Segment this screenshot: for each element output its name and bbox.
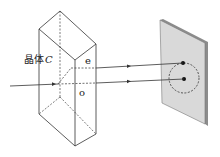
e-ray-label: e — [85, 55, 91, 66]
incident-ray — [10, 82, 58, 86]
o-ray-label: o — [79, 87, 85, 98]
crystal-symbol: C — [45, 54, 53, 65]
screen — [160, 19, 208, 126]
arrow-icon — [127, 65, 131, 69]
crystal-edges — [39, 11, 96, 146]
arrow-icon — [52, 82, 56, 86]
internal-rays — [58, 68, 96, 84]
crystal-label: 晶体 — [24, 54, 44, 65]
birefringence-diagram: 晶体 C e o — [0, 0, 220, 157]
arrow-icon — [127, 80, 131, 84]
screen-face — [160, 20, 205, 124]
